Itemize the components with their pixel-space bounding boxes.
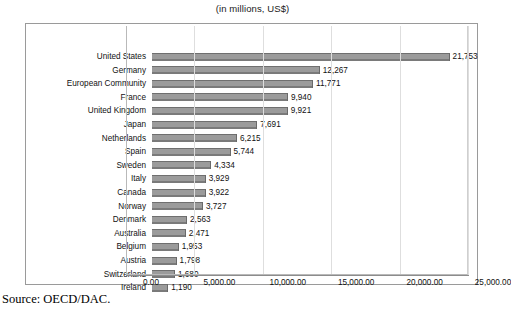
x-tick-label: 25,000.00 (475, 278, 511, 287)
x-tick-label: 15,000.00 (338, 278, 374, 287)
chart-bars-area (126, 26, 468, 276)
chart-title: (in millions, US$) (0, 3, 505, 14)
source-note: Source: OECD/DAC. (2, 292, 110, 307)
x-tick-label: 10,000.00 (270, 278, 306, 287)
bar-value-label: 1,190 (171, 281, 192, 295)
x-tick-label: 5,000.00 (203, 278, 235, 287)
x-axis-line (126, 275, 469, 276)
x-tick-label: 20,000.00 (406, 278, 442, 287)
gridline (468, 26, 469, 275)
x-tick-label: 0.00 (143, 278, 159, 287)
